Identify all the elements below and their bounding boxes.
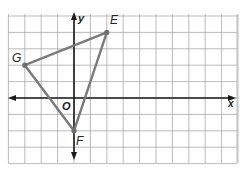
coordinate-plane: y x O E G F xyxy=(0,0,240,171)
y-axis-label: y xyxy=(77,12,85,24)
vertex-point-e xyxy=(104,30,109,35)
origin-label: O xyxy=(62,100,71,112)
vertex-point-f xyxy=(71,128,76,133)
x-axis-left-arrow-icon xyxy=(8,95,16,101)
axes xyxy=(8,12,236,160)
point-label-e: E xyxy=(110,13,119,27)
point-label-g: G xyxy=(12,51,21,65)
point-label-f: F xyxy=(76,134,84,148)
vertex-point-g xyxy=(22,63,27,68)
x-axis-label: x xyxy=(227,98,234,109)
y-axis-down-arrow-icon xyxy=(71,152,77,160)
